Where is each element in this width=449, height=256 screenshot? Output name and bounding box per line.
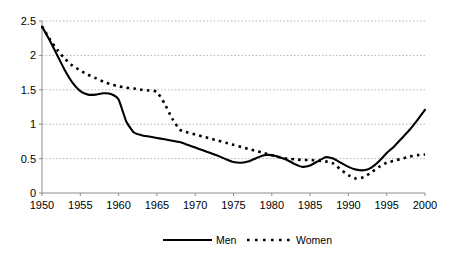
x-axis-tick-labels: 1950195519601965197019751980198519901995…: [30, 199, 437, 211]
x-tick-label: 1950: [30, 199, 54, 211]
line-chart: 00.511.522.5 195019551960196519701975198…: [0, 0, 449, 256]
y-tick-label: 0: [30, 187, 36, 199]
y-tick-label: 2: [30, 49, 36, 61]
x-tick-label: 1970: [183, 199, 207, 211]
x-tick-label: 1980: [260, 199, 284, 211]
x-tick-label: 1960: [106, 199, 130, 211]
x-tick-label: 2000: [413, 199, 437, 211]
legend-women-label: Women: [296, 234, 332, 246]
chart-svg: 00.511.522.5 195019551960196519701975198…: [0, 0, 449, 256]
y-tick-label: 2.5: [21, 15, 36, 27]
y-tick-label: 1.5: [21, 84, 36, 96]
chart-background: [0, 0, 449, 256]
x-tick-label: 1965: [145, 199, 169, 211]
x-tick-label: 1955: [68, 199, 92, 211]
x-tick-label: 1975: [221, 199, 245, 211]
y-tick-label: 0.5: [21, 153, 36, 165]
x-tick-label: 1990: [336, 199, 360, 211]
x-tick-label: 1995: [374, 199, 398, 211]
legend-men-label: Men: [216, 234, 237, 246]
y-tick-label: 1: [30, 118, 36, 130]
x-tick-label: 1985: [298, 199, 322, 211]
